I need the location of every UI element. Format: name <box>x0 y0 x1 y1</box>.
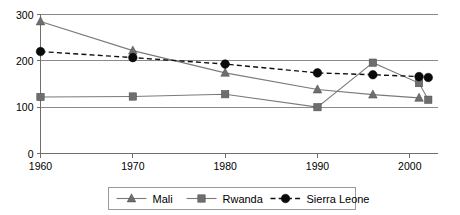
series-line-rwanda <box>41 63 429 107</box>
datapoint-rwanda-1960 <box>37 93 44 100</box>
y-tick-label-200: 200 <box>16 55 34 67</box>
datapoint-mali-1960 <box>36 17 45 25</box>
y-tick-label-0: 0 <box>28 148 34 160</box>
x-tick-label-1980: 1980 <box>213 160 237 172</box>
axis-group <box>37 15 438 158</box>
x-tick-label-2000: 2000 <box>398 160 422 172</box>
datapoint-rwanda-1980 <box>221 90 228 97</box>
x-tick-label-1960: 1960 <box>29 160 53 172</box>
datapoint-rwanda-1990 <box>314 103 321 110</box>
x-tick-label-1990: 1990 <box>306 160 330 172</box>
datapoint-sierra-leone-1996 <box>369 70 378 79</box>
legend-label-rwanda: Rwanda <box>223 193 264 205</box>
datapoint-rwanda-2002 <box>425 96 432 103</box>
datapoint-sierra-leone-1960 <box>36 47 45 56</box>
x-axis-tick-labels: 19601970198019902000 <box>29 160 422 172</box>
datapoint-sierra-leone-2002 <box>424 73 433 82</box>
legend-marker-sierra-leone <box>281 194 290 203</box>
legend-label-mali: Mali <box>153 193 173 205</box>
y-tick-label-300: 300 <box>16 9 34 21</box>
datapoint-sierra-leone-1980 <box>221 60 230 69</box>
x-tick-label-1970: 1970 <box>121 160 145 172</box>
legend-marker-rwanda <box>198 195 205 202</box>
datapoint-sierra-leone-1990 <box>313 69 322 78</box>
legend-label-sierra-leone: Sierra Leone <box>307 193 370 205</box>
datapoint-rwanda-1970 <box>129 93 136 100</box>
legend-item-sierra-leone[interactable]: Sierra Leone <box>271 193 370 205</box>
y-tick-label-100: 100 <box>16 101 34 113</box>
datapoint-sierra-leone-2001 <box>415 72 424 81</box>
datapoint-sierra-leone-1970 <box>129 53 138 62</box>
y-axis-tick-labels: 0100200300 <box>16 9 34 160</box>
chart-canvas: 0100200300 19601970198019902000 MaliRwan… <box>0 0 460 215</box>
datapoint-rwanda-1996 <box>369 59 376 66</box>
chart-legend: MaliRwandaSierra Leone <box>109 188 370 210</box>
series-line-mali <box>41 21 420 97</box>
line-chart: 0100200300 19601970198019902000 MaliRwan… <box>0 0 460 215</box>
gridlines-group <box>41 15 438 154</box>
